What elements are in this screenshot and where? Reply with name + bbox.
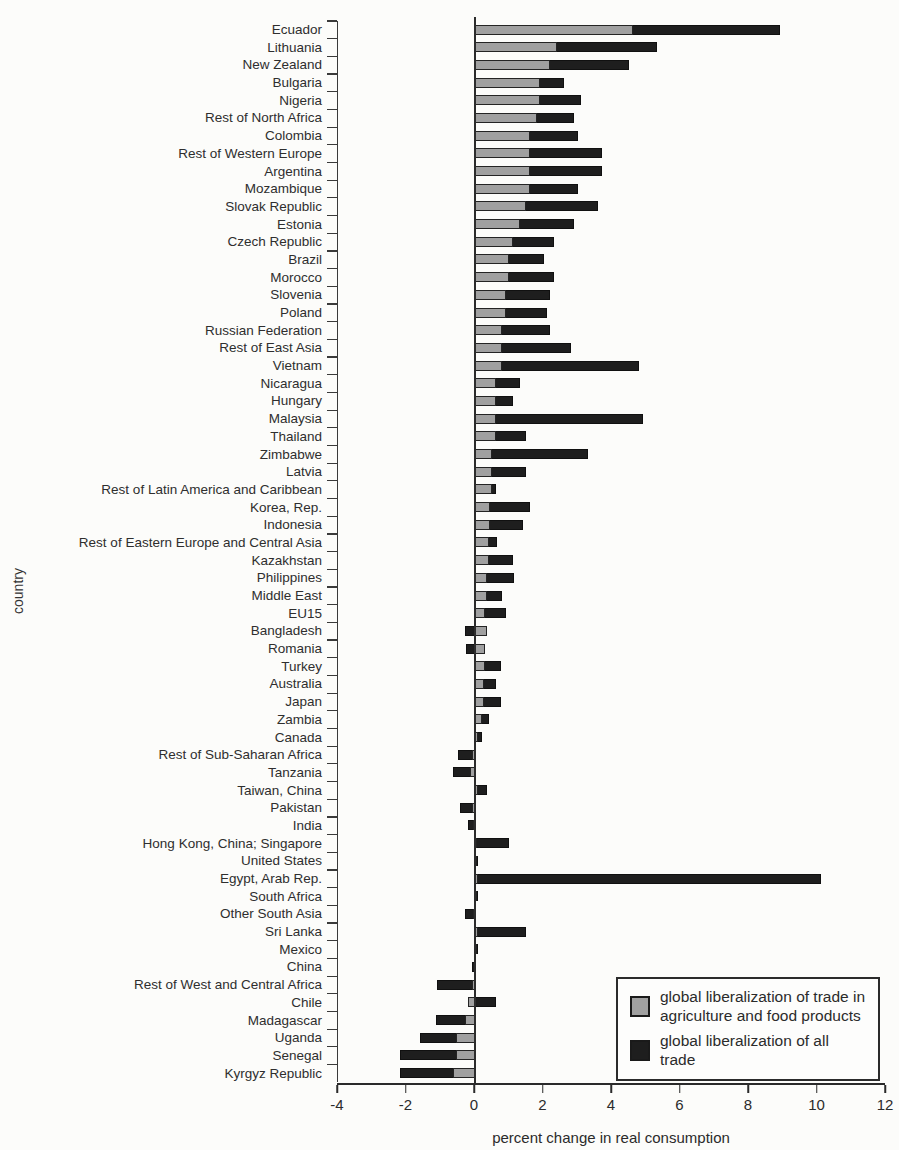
row-plot-area [337, 693, 886, 711]
x-axis-tick-label: 4 [607, 1096, 615, 1113]
x-axis-tick-label: 6 [675, 1096, 683, 1113]
row-plot-area [337, 109, 886, 127]
row-plot-area [337, 198, 886, 216]
bar-agriculture [475, 679, 484, 689]
bar-agriculture [475, 537, 489, 547]
row-plot-area [337, 339, 886, 357]
row-plot-area [337, 463, 886, 481]
row-plot-area [337, 675, 886, 693]
chart-row: Rest of North Africa [0, 109, 899, 127]
bar-agriculture [473, 909, 475, 919]
chart-row: Mozambique [0, 180, 899, 198]
country-label: Japan [0, 693, 337, 711]
country-label: New Zealand [0, 56, 337, 74]
country-label: Morocco [0, 269, 337, 287]
chart-row: EU15 [0, 605, 899, 623]
bar-agriculture [453, 1068, 475, 1078]
bar-all-trade [475, 874, 821, 884]
legend-box: global liberalization of trade in agricu… [616, 977, 880, 1081]
country-label: Latvia [0, 463, 337, 481]
x-axis-tick-label: 8 [744, 1096, 752, 1113]
row-plot-area [337, 357, 886, 375]
row-plot-area [337, 852, 886, 870]
bar-agriculture [475, 874, 478, 884]
row-plot-area [337, 640, 886, 658]
bar-all-trade [466, 644, 475, 654]
bar-agriculture [475, 484, 492, 494]
x-axis: -4-2024681012 [337, 1083, 885, 1127]
row-plot-area [337, 711, 886, 729]
row-plot-area [337, 729, 886, 747]
row-plot-area [337, 658, 886, 676]
row-plot-area [337, 552, 886, 570]
legend-item-all-trade: global liberalization of all trade [630, 1032, 868, 1070]
bar-all-trade [475, 927, 526, 937]
chart-row: Pakistan [0, 799, 899, 817]
country-label: Bulgaria [0, 74, 337, 92]
row-plot-area [337, 587, 886, 605]
bar-agriculture [475, 697, 484, 707]
bar-agriculture [475, 732, 478, 742]
country-label: Mozambique [0, 180, 337, 198]
chart-row: Japan [0, 693, 899, 711]
row-plot-area [337, 163, 886, 181]
chart-row: Indonesia [0, 516, 899, 534]
row-plot-area [337, 782, 886, 800]
row-plot-area [337, 534, 886, 552]
bar-agriculture [475, 396, 496, 406]
row-plot-area [337, 127, 886, 145]
chart-row: Bulgaria [0, 74, 899, 92]
chart-row: Nigeria [0, 92, 899, 110]
x-axis-tick-label: -4 [330, 1096, 343, 1113]
chart-row: Rest of Western Europe [0, 145, 899, 163]
bar-all-trade [465, 626, 475, 636]
chart-row: Middle East [0, 587, 899, 605]
chart-row: Thailand [0, 428, 899, 446]
country-label: Zambia [0, 711, 337, 729]
country-label: Argentina [0, 163, 337, 181]
country-label: Middle East [0, 587, 337, 605]
country-label: United States [0, 852, 337, 870]
x-axis-tick [542, 1085, 544, 1093]
country-label: Rest of West and Central Africa [0, 976, 337, 994]
chart-row: Hong Kong, China; Singapore [0, 835, 899, 853]
chart-row: Colombia [0, 127, 899, 145]
chart-row: Malaysia [0, 410, 899, 428]
chart-row: Mexico [0, 941, 899, 959]
chart-row: Zambia [0, 711, 899, 729]
row-plot-area [337, 746, 886, 764]
row-plot-area [337, 180, 886, 198]
country-label: Romania [0, 640, 337, 658]
country-label: Madagascar [0, 1012, 337, 1030]
country-label: Thailand [0, 428, 337, 446]
bar-agriculture [456, 1050, 475, 1060]
x-axis-tick [679, 1085, 681, 1093]
chart-row: Slovak Republic [0, 198, 899, 216]
bar-all-trade [437, 980, 475, 990]
chart-row: Korea, Rep. [0, 499, 899, 517]
x-axis-tick [405, 1085, 407, 1093]
x-axis-tick [473, 1085, 475, 1093]
chart-row: Argentina [0, 163, 899, 181]
country-label: Lithuania [0, 39, 337, 57]
row-plot-area [337, 392, 886, 410]
bar-agriculture [475, 449, 492, 459]
country-label: Ecuador [0, 21, 337, 39]
country-label: Kazakhstan [0, 552, 337, 570]
country-label: China [0, 958, 337, 976]
row-plot-area [337, 888, 886, 906]
row-plot-area [337, 958, 886, 976]
country-label: Nigeria [0, 92, 337, 110]
bar-agriculture [472, 803, 475, 813]
row-plot-area [337, 569, 886, 587]
chart-row: Nicaragua [0, 375, 899, 393]
chart-row: Bangladesh [0, 622, 899, 640]
x-axis-tick [884, 1085, 886, 1093]
country-label: Taiwan, China [0, 782, 337, 800]
bar-agriculture [475, 113, 537, 123]
chart-row: Czech Republic [0, 233, 899, 251]
bar-agriculture [475, 927, 478, 937]
row-plot-area [337, 622, 886, 640]
chart-row: Rest of Sub-Saharan Africa [0, 746, 899, 764]
bar-agriculture [475, 166, 530, 176]
